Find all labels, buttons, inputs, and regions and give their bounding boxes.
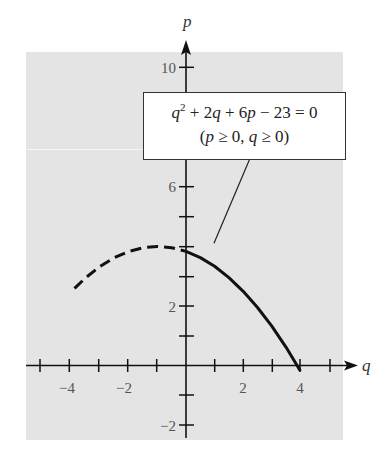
- eq-var-p: p: [247, 103, 256, 122]
- x-tick-label: 4: [296, 380, 304, 396]
- eq-var-q: q: [249, 127, 258, 146]
- y-tick-label: 10: [161, 60, 176, 76]
- constraint-line: (p ≥ 0, q ≥ 0): [144, 125, 345, 149]
- equation-annotation-box: q2 + 2q + 6p − 23 = 0 (p ≥ 0, q ≥ 0): [143, 92, 346, 160]
- y-tick-label: 6: [169, 179, 177, 195]
- x-tick-label: −2: [116, 380, 132, 396]
- y-tick-label: −2: [160, 418, 176, 434]
- chart-svg: −4 −2 2 4 q 10: [0, 0, 386, 458]
- eq-text: ≥ 0,: [214, 127, 249, 146]
- eq-text: + 6: [221, 103, 248, 122]
- y-tick-label: 2: [169, 299, 177, 315]
- eq-text: ≥ 0): [257, 127, 289, 146]
- chart: −4 −2 2 4 q 10: [0, 0, 386, 458]
- eq-var-q: q: [212, 103, 221, 122]
- x-axis-label: q: [362, 356, 371, 375]
- eq-var-p: p: [205, 127, 214, 146]
- x-tick-label: 2: [239, 380, 247, 396]
- eq-var-q: q: [172, 103, 181, 122]
- eq-text: − 23 = 0: [256, 103, 318, 122]
- y-axis-label: p: [182, 12, 192, 31]
- x-tick-label: −4: [59, 380, 75, 396]
- equation-line: q2 + 2q + 6p − 23 = 0: [144, 101, 345, 125]
- eq-text: + 2: [186, 103, 213, 122]
